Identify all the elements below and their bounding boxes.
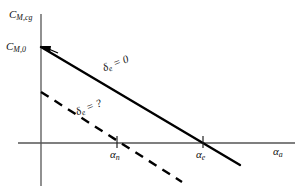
y-axis-label: CM,cg bbox=[9, 9, 32, 22]
tick-label-alpha-n: αn bbox=[110, 149, 120, 162]
curve-delta-e-zero bbox=[41, 47, 240, 165]
intercept-label: CM,0 bbox=[6, 41, 26, 54]
moment-coefficient-diagram: CM,cg CM,0 αa αn αe δe = 0 δe = ? bbox=[0, 0, 300, 193]
tick-label-alpha-e: αe bbox=[196, 149, 205, 162]
y-axis-label-sub: M,cg bbox=[16, 13, 32, 22]
x-axis-label-sub: a bbox=[279, 150, 283, 159]
x-axis-label: αa bbox=[273, 146, 283, 159]
curve-delta-e-unknown bbox=[41, 92, 182, 182]
diagram-canvas bbox=[0, 0, 300, 193]
tick-label-alpha-n-sub: n bbox=[116, 153, 120, 162]
intercept-label-sub: M,0 bbox=[13, 45, 26, 54]
tick-label-alpha-e-sub: e bbox=[202, 153, 206, 162]
